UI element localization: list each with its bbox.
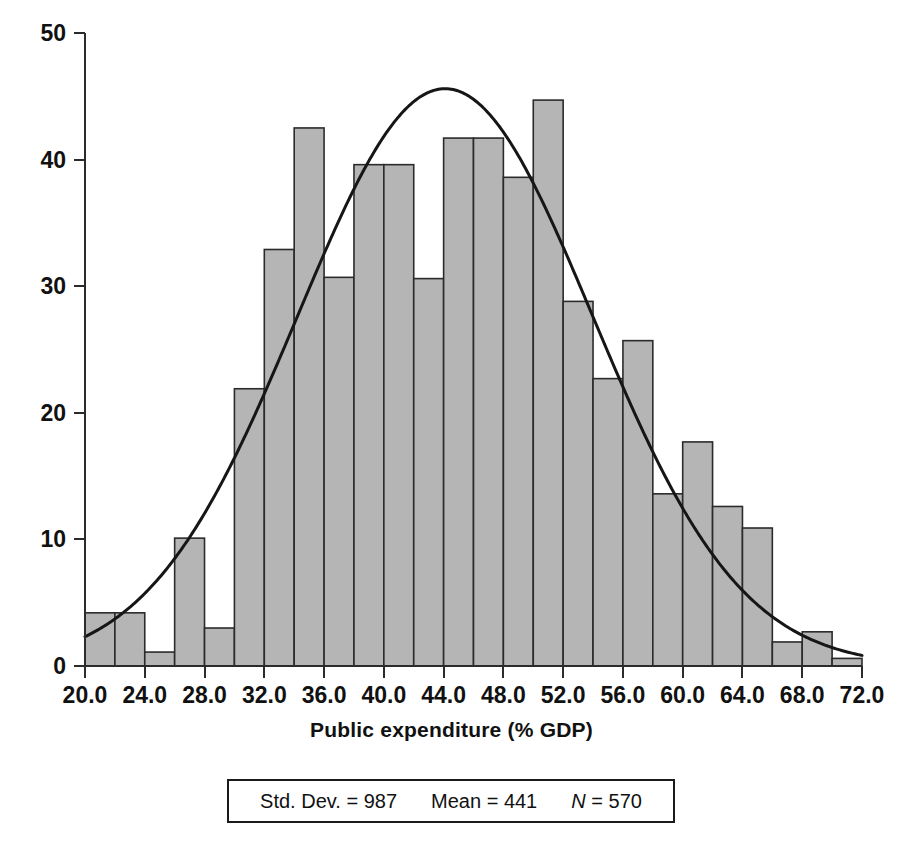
histogram-bar: [414, 279, 444, 666]
histogram-bar: [653, 494, 683, 666]
y-tick-label: 0: [53, 653, 66, 679]
x-axis-ticks: 20.024.028.032.036.040.044.048.052.056.0…: [63, 666, 885, 708]
histogram-bar: [593, 379, 623, 666]
mean-value: 441: [504, 790, 537, 812]
mean-label: Mean =: [431, 790, 498, 812]
x-tick-label: 64.0: [720, 682, 765, 708]
histogram-bar: [115, 613, 145, 666]
histogram-bar: [175, 538, 205, 666]
y-tick-label: 30: [40, 273, 66, 299]
n-symbol: N: [571, 790, 585, 812]
histogram-bar: [145, 652, 175, 666]
histogram-bar: [503, 177, 533, 666]
histogram-bar: [772, 642, 802, 666]
y-tick-label: 10: [40, 526, 66, 552]
y-tick-label: 40: [40, 147, 66, 173]
x-tick-label: 60.0: [660, 682, 705, 708]
x-tick-label: 24.0: [122, 682, 167, 708]
x-axis-title: Public expenditure (% GDP): [0, 718, 903, 742]
x-tick-label: 56.0: [601, 682, 646, 708]
histogram-bar: [683, 442, 713, 666]
x-tick-label: 32.0: [242, 682, 287, 708]
histogram-bar: [264, 249, 294, 666]
histogram-bar: [742, 528, 772, 666]
histogram-bar: [294, 128, 324, 666]
n-stat: N = 570: [571, 790, 642, 813]
histogram-bar: [354, 165, 384, 666]
histogram-bar: [623, 341, 653, 666]
histogram-bar: [324, 277, 354, 666]
x-tick-label: 48.0: [481, 682, 526, 708]
histogram-bar: [384, 165, 414, 666]
histogram-bar: [832, 658, 862, 666]
x-tick-label: 28.0: [182, 682, 227, 708]
std-dev-label: Std. Dev. =: [260, 790, 358, 812]
histogram-bar: [474, 138, 504, 666]
histogram-bar: [234, 389, 264, 666]
x-tick-label: 44.0: [421, 682, 466, 708]
x-tick-label: 52.0: [541, 682, 586, 708]
y-tick-label: 20: [40, 400, 66, 426]
x-tick-label: 72.0: [840, 682, 885, 708]
n-equals: =: [591, 790, 603, 812]
histogram-bar: [533, 100, 563, 666]
n-value: 570: [609, 790, 642, 812]
statistics-box: Std. Dev. = 987 Mean = 441 N = 570: [227, 779, 675, 823]
histogram-bar: [444, 138, 474, 666]
y-axis-ticks: 01020304050: [40, 20, 85, 679]
std-dev-stat: Std. Dev. = 987: [260, 790, 397, 813]
x-tick-label: 68.0: [780, 682, 825, 708]
x-tick-label: 20.0: [63, 682, 108, 708]
histogram-bar: [205, 628, 235, 666]
histogram-bar: [563, 301, 593, 666]
y-tick-label: 50: [40, 20, 66, 46]
histogram-figure: 01020304050 20.024.028.032.036.040.044.0…: [0, 0, 903, 851]
x-tick-label: 40.0: [361, 682, 406, 708]
std-dev-value: 987: [364, 790, 397, 812]
mean-stat: Mean = 441: [431, 790, 537, 813]
x-tick-label: 36.0: [302, 682, 347, 708]
bars-group: [85, 100, 862, 666]
